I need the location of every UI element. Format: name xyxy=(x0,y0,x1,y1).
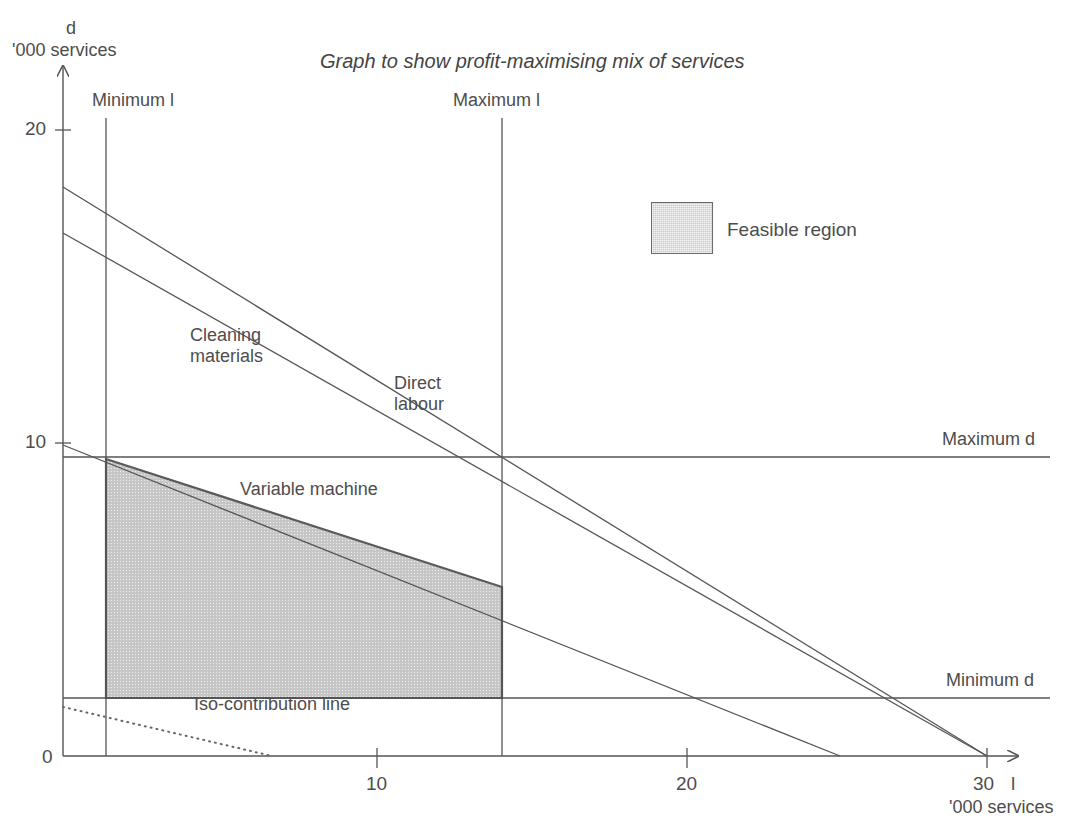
y-tick-label-10: 10 xyxy=(25,431,46,453)
minimum-l-label: Minimum l xyxy=(92,90,174,111)
y-axis-symbol: d xyxy=(66,18,76,39)
maximum-d-label: Maximum d xyxy=(942,429,1035,450)
x-axis-units: '000 services xyxy=(949,797,1053,818)
x-tick-label-30: 30 xyxy=(973,773,994,795)
x-tick-label-20: 20 xyxy=(676,773,697,795)
origin-label: 0 xyxy=(42,746,53,768)
direct-labour-label: Direct labour xyxy=(394,373,444,415)
variable-machine-label: Variable machine xyxy=(240,479,378,500)
y-axis-units: '000 services xyxy=(12,40,116,61)
maximum-l-label: Maximum l xyxy=(453,90,540,111)
feasible-region-swatch xyxy=(651,202,713,254)
feasible-region-legend-label: Feasible region xyxy=(727,219,857,241)
iso-contribution-label: Iso-contribution line xyxy=(194,694,350,715)
x-axis-symbol: l xyxy=(1011,773,1015,795)
graph-canvas: Graph Graph to show profit-maximising mi… xyxy=(0,0,1085,838)
x-tick-label-10: 10 xyxy=(366,773,387,795)
cleaning-materials-label: Cleaning materials xyxy=(190,325,263,367)
linear-programming-plot xyxy=(0,0,1085,838)
minimum-d-label: Minimum d xyxy=(946,670,1034,691)
y-tick-label-20: 20 xyxy=(25,118,46,140)
